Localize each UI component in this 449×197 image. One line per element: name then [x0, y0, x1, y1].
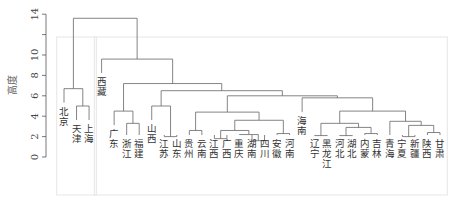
- leaf-label: 湖北: [347, 138, 357, 159]
- y-tick-label: 4: [29, 113, 40, 119]
- dendrogram-branch: [321, 123, 359, 135]
- leaf-label: 海南: [297, 115, 307, 136]
- dendrogram-branch: [427, 133, 440, 135]
- leaf-label: 西藏: [97, 76, 107, 97]
- leaf-label: 山东: [172, 138, 182, 159]
- y-tick-label: 14: [29, 8, 40, 21]
- y-tick-label: 2: [29, 133, 40, 139]
- leaf-label: 陕西: [422, 138, 432, 159]
- leaf-label: 辽宁: [310, 138, 320, 159]
- y-tick-label: 6: [29, 93, 40, 99]
- dendrogram-chart: 024681014 高度 北京天津上海西藏广东浙江福建山西江苏山东贵州云南江西广…: [0, 0, 449, 197]
- dendrogram-branch: [365, 134, 378, 135]
- dendrogram-branch: [77, 106, 90, 120]
- leaf-label: 云南: [197, 138, 207, 159]
- leaf-label: 广东: [109, 128, 119, 149]
- dendrogram-branch: [302, 98, 373, 112]
- dendrogram-branch: [235, 120, 284, 133]
- dendrogram-branch: [102, 59, 173, 83]
- y-tick-label: 0: [29, 154, 40, 160]
- leaf-label: 安徽: [272, 138, 282, 159]
- leaf-label: 黑龙江: [322, 138, 332, 169]
- leaf-label: 江西: [209, 138, 219, 159]
- dendrogram-branch: [390, 121, 421, 135]
- leaf-label: 天津: [72, 123, 82, 144]
- y-axis-label: 高度: [6, 75, 18, 95]
- y-axis: 024681014: [29, 8, 46, 160]
- dendrogram-branch: [161, 91, 282, 106]
- leaf-label: 北京: [59, 106, 69, 127]
- leaf-label: 内蒙: [360, 138, 370, 159]
- dendrogram-branch: [346, 127, 371, 135]
- leaf-labels: 北京天津上海西藏广东浙江福建山西江苏山东贵州云南江西广西重庆湖南四川安徽河南海南…: [59, 76, 445, 169]
- leaf-label: 上海: [84, 123, 94, 144]
- leaf-label: 江苏: [159, 138, 169, 159]
- leaf-label: 重庆: [234, 138, 244, 159]
- leaf-label: 甘肃: [435, 138, 445, 159]
- leaf-label: 宁夏: [397, 138, 407, 159]
- leaf-label: 河北: [335, 138, 345, 159]
- y-tick-label: 8: [29, 72, 40, 78]
- dendrogram-branch: [189, 130, 202, 135]
- cluster-boxes: [57, 37, 448, 195]
- dendrogram-branch: [196, 112, 259, 130]
- dendrogram-branch: [277, 134, 290, 135]
- leaf-label: 青海: [385, 138, 395, 159]
- leaf-label: 新疆: [410, 138, 420, 159]
- leaf-label: 福建: [134, 138, 144, 159]
- leaf-label: 吉林: [372, 138, 382, 159]
- leaf-label: 河南: [285, 138, 295, 159]
- leaf-label: 湖南: [247, 138, 257, 159]
- dendrogram-branch: [227, 96, 337, 112]
- leaf-label: 贵州: [184, 138, 194, 159]
- leaf-label: 浙江: [122, 138, 132, 159]
- dendrogram-branch: [64, 89, 83, 106]
- dendrogram-branch: [124, 84, 222, 112]
- dendrogram-branch: [409, 125, 434, 136]
- leaf-label: 广西: [222, 138, 232, 159]
- leaf-label: 山西: [147, 123, 157, 144]
- cluster-box: [94, 37, 447, 195]
- dendrogram-branch: [127, 123, 140, 135]
- y-tick-label: 10: [29, 49, 40, 62]
- leaf-label: 四川: [260, 138, 270, 159]
